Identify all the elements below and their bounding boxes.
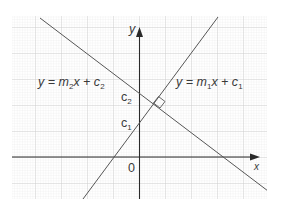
x-axis-label: x bbox=[253, 161, 260, 172]
origin-label: 0 bbox=[128, 161, 135, 175]
y-axis-label: y bbox=[128, 22, 136, 36]
diagram-figure: y x 0 c2 c1 y = m2x + c2 y = m1x + c1 bbox=[0, 0, 281, 212]
